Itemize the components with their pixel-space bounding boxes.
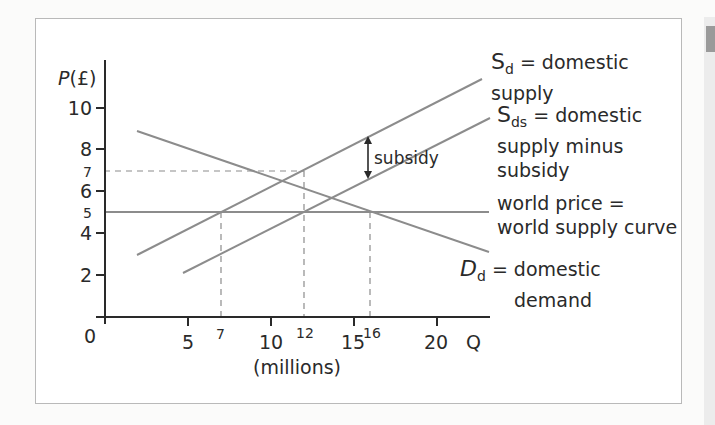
y-tick-4: 4	[58, 223, 92, 243]
domestic-supply-minus-subsidy-line	[183, 118, 490, 273]
sd-symbol: S	[491, 49, 505, 74]
sd-legend: Sd = domestic supply	[491, 50, 629, 105]
dd-label-line1: = domestic	[486, 258, 601, 280]
subsidy-label: subsidy	[374, 146, 439, 170]
dd-subscript: d	[477, 268, 486, 284]
x-tick-12: 12	[296, 321, 314, 345]
sd-label-line1: = domestic	[514, 51, 629, 73]
curves	[104, 79, 490, 273]
x-tick-15: 15	[341, 330, 365, 354]
y-ticks	[96, 108, 105, 275]
x-tick-10: 10	[259, 330, 283, 354]
y-axis-label-unit: (£)	[69, 67, 96, 89]
sds-legend: Sds = domestic supply minus subsidy	[497, 103, 642, 182]
sds-subscript: ds	[511, 114, 527, 130]
dashed-guides	[104, 171, 370, 316]
world-price-legend: world price = world supply curve	[497, 191, 677, 239]
world-label-line1: world price =	[497, 192, 625, 214]
y-tick-7: 7	[58, 162, 92, 182]
y-tick-2: 2	[58, 265, 92, 285]
sd-label-line2: supply	[491, 82, 554, 104]
y-tick-6: 6	[58, 181, 92, 201]
y-tick-8: 8	[58, 139, 92, 159]
sds-label-line1: = domestic	[527, 104, 642, 126]
dd-legend: Dd = domestic demand	[460, 257, 601, 312]
sds-symbol: S	[497, 102, 511, 127]
y-tick-5: 5	[58, 203, 92, 223]
x-axis-end-label: Q	[466, 330, 481, 354]
x-axis-unit-label: (millions)	[253, 355, 341, 379]
dd-symbol: D	[460, 256, 477, 281]
x-tick-20: 20	[424, 330, 448, 354]
origin-label: 0	[84, 324, 96, 348]
x-tick-16: 16	[363, 321, 381, 345]
sds-label-line3: subsidy	[497, 159, 569, 181]
axes	[96, 60, 490, 324]
world-label-line2: world supply curve	[497, 216, 677, 238]
subsidy-arrow	[364, 136, 372, 179]
sds-label-line2: supply minus	[497, 135, 623, 157]
y-tick-10: 10	[58, 98, 92, 118]
x-tick-5: 5	[182, 330, 194, 354]
x-tick-7: 7	[216, 322, 225, 346]
y-axis-label: P(£)	[58, 66, 96, 90]
dd-label-line2: demand	[460, 289, 592, 311]
sd-subscript: d	[505, 61, 514, 77]
